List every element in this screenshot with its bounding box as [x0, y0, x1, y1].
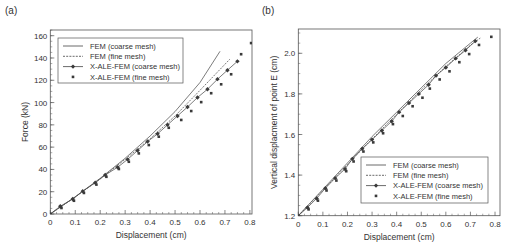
x-tick-label: 0.7 [219, 218, 231, 227]
x-tick-label: 0.3 [367, 220, 379, 229]
square-marker-icon [401, 115, 404, 118]
legend-entry: FEM (fine mesh) [393, 171, 449, 180]
square-marker-icon [200, 101, 203, 104]
square-marker-icon [392, 123, 395, 126]
x-tick-label: 0.1 [70, 218, 82, 227]
legend-entry: X-ALE-FEM (fine mesh) [90, 73, 170, 82]
square-marker-icon [180, 119, 183, 122]
y-tick-label: 1.8 [284, 90, 296, 99]
square-marker-icon [421, 96, 424, 99]
legend-entry: FEM (coarse mesh) [90, 42, 156, 51]
x-tick-label: 0.7 [465, 220, 477, 229]
square-marker-icon [190, 110, 193, 113]
y-tick-label: 60 [38, 143, 47, 152]
x-tick-label: 0.2 [342, 220, 354, 229]
y-tick-label: 140 [34, 54, 48, 63]
square-marker-icon [429, 87, 432, 90]
x-tick-label: 0 [296, 220, 301, 229]
square-marker-icon [317, 199, 320, 202]
x-axis: 00.10.20.30.40.50.60.70.8Displacement (c… [296, 212, 501, 242]
x-tick-label: 0.5 [169, 218, 181, 227]
y-tick-label: 1.6 [284, 131, 296, 140]
legend-square-icon [72, 76, 75, 79]
panel-label: (a) [5, 5, 17, 16]
square-marker-icon [307, 208, 310, 211]
y-tick-label: 20 [38, 188, 47, 197]
square-marker-icon [73, 199, 76, 202]
x-tick-label: 0.4 [391, 220, 403, 229]
y-tick-label: 100 [34, 99, 48, 108]
x-tick-label: 0 [48, 218, 53, 227]
y-tick-label: 1.4 [284, 171, 296, 180]
square-marker-icon [345, 170, 348, 173]
y-tick-label: 0 [43, 210, 48, 219]
legend: FEM (coarse mesh)FEM (fine mesh)X-ALE-FE… [361, 157, 488, 203]
square-marker-icon [298, 216, 301, 219]
y-tick-label: 120 [34, 76, 48, 85]
x-axis-title: Displacement (cm) [364, 232, 435, 242]
x-tick-label: 0.1 [317, 220, 329, 229]
square-marker-icon [60, 207, 63, 210]
square-marker-icon [220, 83, 223, 86]
square-marker-icon [83, 192, 86, 195]
x-tick-label: 0.6 [194, 218, 206, 227]
legend-entry: FEM (fine mesh) [90, 52, 146, 61]
y-tick-label: 2.0 [284, 49, 296, 58]
y-axis: 020406080100120140160Force (kN) [20, 30, 54, 219]
square-marker-icon [157, 135, 160, 138]
square-marker-icon [372, 141, 375, 144]
square-marker-icon [438, 78, 441, 81]
square-marker-icon [167, 126, 170, 129]
square-marker-icon [148, 144, 151, 147]
square-marker-icon [382, 132, 385, 135]
square-marker-icon [411, 105, 414, 108]
y-axis-title: Vertical displacment of point E (cm) [269, 56, 279, 189]
square-marker-icon [468, 53, 471, 56]
panel-label: (b) [262, 5, 274, 16]
square-marker-icon [118, 168, 121, 171]
square-marker-icon [478, 44, 481, 47]
legend-entry: X-ALE-FEM (coarse mesh) [90, 62, 181, 71]
square-marker-icon [490, 36, 493, 39]
x-axis: 00.10.20.30.40.50.60.70.8Displacement (c… [48, 210, 256, 240]
square-marker-icon [210, 92, 213, 95]
x-tick-label: 0.2 [95, 218, 107, 227]
x-tick-label: 0.8 [489, 220, 501, 229]
y-tick-label: 40 [38, 165, 47, 174]
y-axis: 1.21.41.61.82.0Vertical displacment of p… [269, 33, 302, 221]
legend-entry: X-ALE-FEM (fine mesh) [393, 192, 473, 201]
y-tick-label: 160 [34, 32, 48, 41]
square-marker-icon [95, 183, 98, 186]
square-marker-icon [138, 152, 141, 155]
square-marker-icon [448, 70, 451, 73]
x-tick-label: 0.5 [416, 220, 428, 229]
x-tick-label: 0.4 [145, 218, 157, 227]
square-marker-icon [458, 61, 461, 64]
x-axis-title: Displacement (cm) [116, 230, 187, 240]
square-marker-icon [105, 175, 108, 178]
chart-panel-a: (a)00.10.20.30.40.50.60.70.8Displacement… [5, 5, 256, 240]
square-marker-icon [325, 189, 328, 192]
x-tick-label: 0.3 [120, 218, 132, 227]
legend: FEM (coarse mesh)FEM (fine mesh)X-ALE-FE… [58, 38, 183, 83]
figure-canvas: (a)00.10.20.30.40.50.60.70.8Displacement… [0, 0, 514, 252]
square-marker-icon [240, 53, 243, 56]
square-marker-icon [230, 73, 233, 76]
legend-entry: X-ALE-FEM (coarse mesh) [393, 181, 484, 190]
square-marker-icon [335, 179, 338, 182]
legend-entry: FEM (coarse mesh) [393, 161, 459, 170]
y-axis-title: Force (kN) [20, 102, 30, 142]
square-marker-icon [128, 160, 131, 163]
chart-panel-b: (b)00.10.20.30.40.50.60.70.8Displacement… [262, 5, 501, 242]
square-marker-icon [362, 150, 365, 153]
y-tick-label: 80 [38, 121, 47, 130]
x-tick-label: 0.6 [440, 220, 452, 229]
x-tick-label: 0.8 [244, 218, 256, 227]
legend-square-icon [375, 195, 378, 198]
y-tick-label: 1.2 [284, 212, 296, 221]
square-marker-icon [50, 215, 53, 218]
square-marker-icon [352, 160, 355, 163]
